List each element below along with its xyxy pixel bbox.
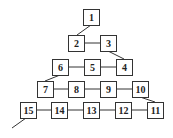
node-13: 13: [83, 102, 100, 119]
node-7: 7: [37, 81, 54, 98]
node-12: 12: [115, 102, 132, 119]
node-5: 5: [84, 59, 101, 76]
node-11: 11: [147, 102, 164, 119]
node-9: 9: [100, 81, 117, 98]
node-2: 2: [68, 35, 85, 52]
node-10: 10: [132, 81, 149, 98]
node-3: 3: [100, 35, 117, 52]
node-14: 14: [51, 102, 68, 119]
node-8: 8: [68, 81, 85, 98]
node-4: 4: [116, 59, 133, 76]
node-6: 6: [52, 59, 69, 76]
node-15: 15: [20, 102, 37, 119]
node-1: 1: [83, 9, 100, 26]
